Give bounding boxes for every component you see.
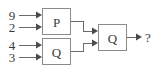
input-label-2: 2 — [9, 20, 16, 35]
arrowhead-input-3 — [36, 54, 42, 61]
block-diagram: P Q Q 9 2 4 3 ? — [0, 0, 155, 69]
arrowhead-output — [136, 34, 142, 41]
block-q-lower-label: Q — [52, 45, 62, 60]
output-label-question: ? — [145, 30, 151, 45]
input-label-3: 3 — [9, 50, 16, 65]
block-q-output-label: Q — [108, 31, 118, 46]
arrowhead-q-to-q — [92, 40, 98, 47]
diagram-canvas: P Q Q 9 2 4 3 ? — [0, 0, 155, 69]
arrowhead-input-9 — [36, 12, 42, 19]
arrowhead-p-to-q — [92, 28, 98, 35]
arrowhead-input-4 — [36, 42, 42, 49]
block-p-label: P — [53, 15, 60, 30]
wire-q-to-q — [71, 43, 92, 51]
wire-p-to-q — [71, 21, 92, 31]
arrowhead-input-2 — [36, 24, 42, 31]
